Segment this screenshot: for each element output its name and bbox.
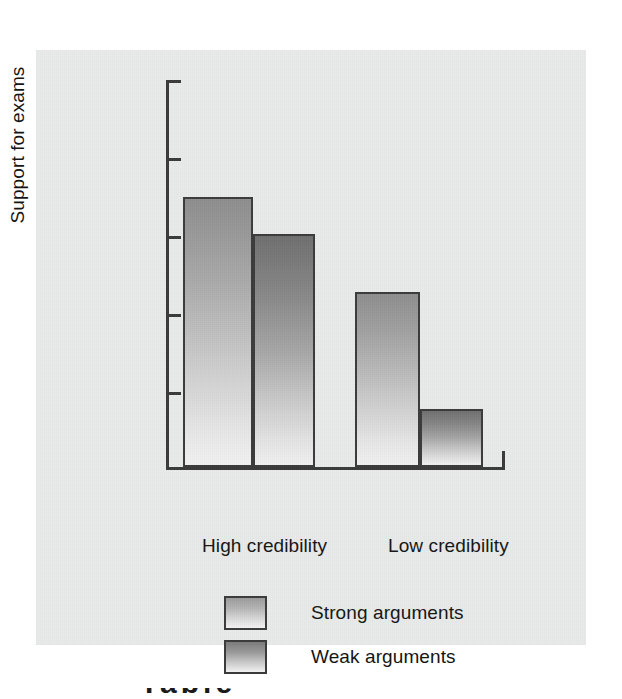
legend-swatch-strong-arguments-icon <box>224 596 267 630</box>
cropped-caption-text: Table <box>140 688 236 699</box>
cropped-caption: Table <box>0 688 622 699</box>
y-axis-tick-3 <box>166 236 181 239</box>
bar-high-credibility-strong <box>183 197 253 467</box>
y-axis-tick-1 <box>166 392 181 395</box>
bar-low-credibility-strong <box>355 292 420 467</box>
legend-item-strong-arguments: Strong arguments <box>224 591 464 635</box>
y-axis-line <box>166 80 169 470</box>
y-axis-tick-2 <box>166 314 181 317</box>
y-axis-tick-5 <box>166 80 181 83</box>
x-axis-tick-labels: High credibility Low credibility <box>202 535 547 561</box>
legend-label-strong-arguments: Strong arguments <box>311 602 464 624</box>
x-tick-label-low-credibility: Low credibility <box>388 535 509 557</box>
legend-label-weak-arguments: Weak arguments <box>311 646 456 668</box>
bar-high-credibility-weak <box>253 234 315 467</box>
legend-swatch-weak-arguments-icon <box>224 640 267 674</box>
y-axis-title: Support for exams <box>7 30 29 260</box>
chart-legend: Strong arguments Weak arguments <box>224 591 464 679</box>
x-axis-end-tick <box>502 451 505 470</box>
y-axis-tick-4 <box>166 158 181 161</box>
x-tick-label-high-credibility: High credibility <box>202 535 327 557</box>
legend-item-weak-arguments: Weak arguments <box>224 635 464 679</box>
bar-low-credibility-weak <box>420 409 483 467</box>
x-axis-line <box>166 467 505 470</box>
figure-panel: Support for exams High credibility Low c… <box>36 50 586 645</box>
plot-area <box>166 80 506 470</box>
